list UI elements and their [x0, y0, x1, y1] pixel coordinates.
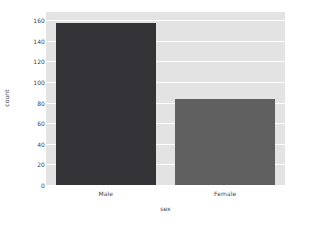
y-tick-label: 0 — [5, 182, 45, 189]
y-tick-label: 40 — [5, 140, 45, 147]
x-tick-label: Male — [98, 190, 113, 197]
gridline — [46, 20, 285, 21]
chart-figure: 020406080100120140160 MaleFemale sex cou… — [0, 0, 333, 226]
y-tick-label: 120 — [5, 58, 45, 65]
x-tick-label: Female — [214, 190, 236, 197]
y-tick-label: 160 — [5, 17, 45, 24]
y-tick-label: 20 — [5, 161, 45, 168]
x-axis-label: sex — [46, 205, 285, 212]
bar — [175, 99, 275, 186]
y-tick-label: 140 — [5, 37, 45, 44]
y-axis-label: count — [3, 89, 10, 106]
y-tick-label: 60 — [5, 120, 45, 127]
y-tick-label: 80 — [5, 99, 45, 106]
plot-area — [46, 12, 285, 185]
bar — [56, 23, 156, 185]
y-tick-label: 100 — [5, 79, 45, 86]
